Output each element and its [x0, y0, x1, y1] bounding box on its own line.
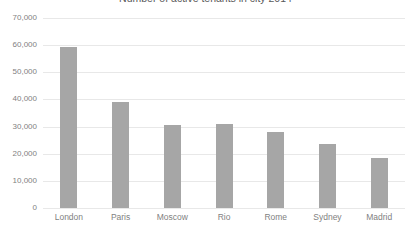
- bar-london[interactable]: [60, 47, 77, 209]
- y-axis-tick-label: 60,000: [0, 41, 37, 49]
- bar-moscow[interactable]: [164, 125, 181, 208]
- bar-paris[interactable]: [112, 102, 129, 208]
- x-axis-label-london: London: [43, 211, 95, 223]
- gridline: [43, 208, 405, 209]
- bar-slot: [146, 18, 198, 208]
- x-axis: LondonParisMoscowRioRomeSydneyMadrid: [43, 211, 405, 223]
- y-axis-tick-label: 10,000: [0, 177, 37, 185]
- y-axis-tick-label: 40,000: [0, 95, 37, 103]
- bar-madrid[interactable]: [371, 158, 388, 208]
- bar-chart: Number of active tenants in city 2014 70…: [0, 0, 411, 237]
- bar-slot: [95, 18, 147, 208]
- y-axis-tick-label: 30,000: [0, 123, 37, 131]
- y-axis-tick-label: 20,000: [0, 150, 37, 158]
- chart-title: Number of active tenants in city 2014: [0, 0, 411, 5]
- plot-area: [43, 18, 405, 208]
- y-axis-tick-label: 0: [0, 204, 37, 212]
- x-axis-label-sydney: Sydney: [302, 211, 354, 223]
- bar-rio[interactable]: [216, 124, 233, 208]
- x-axis-label-paris: Paris: [95, 211, 147, 223]
- bar-slot: [250, 18, 302, 208]
- y-axis-tick-label: 50,000: [0, 68, 37, 76]
- bar-slot: [353, 18, 405, 208]
- bar-series: [43, 18, 405, 208]
- bar-slot: [43, 18, 95, 208]
- x-axis-label-rome: Rome: [250, 211, 302, 223]
- bar-rome[interactable]: [267, 132, 284, 208]
- x-axis-label-moscow: Moscow: [146, 211, 198, 223]
- bar-slot: [198, 18, 250, 208]
- x-axis-label-madrid: Madrid: [353, 211, 405, 223]
- y-axis-tick-label: 70,000: [0, 14, 37, 22]
- bar-slot: [302, 18, 354, 208]
- x-axis-label-rio: Rio: [198, 211, 250, 223]
- bar-sydney[interactable]: [319, 144, 336, 208]
